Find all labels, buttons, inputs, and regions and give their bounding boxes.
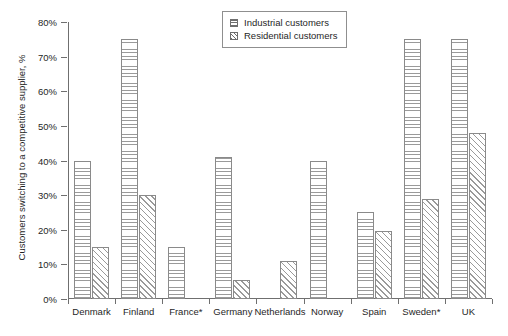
y-tick [61, 22, 67, 23]
bar-group [209, 22, 256, 299]
bar-group [445, 22, 492, 299]
bar-industrial [404, 39, 421, 299]
bar-industrial [310, 161, 327, 300]
bar-group [304, 22, 351, 299]
y-tick [61, 230, 67, 231]
bar-group [256, 22, 303, 299]
y-tick [61, 195, 67, 196]
legend-item-industrial: Industrial customers [230, 16, 337, 29]
y-tick [61, 161, 67, 162]
bar-industrial [451, 39, 468, 299]
y-tick [61, 57, 67, 58]
x-axis-label: Denmark [72, 306, 111, 317]
legend-swatch-icon-residential [230, 32, 238, 40]
bar-residential [233, 280, 250, 299]
x-axis-label: France* [169, 306, 202, 317]
bar-residential [92, 247, 109, 299]
x-axis-label: Spain [362, 306, 386, 317]
x-tick [209, 299, 210, 304]
x-tick [304, 299, 305, 304]
y-tick [61, 299, 67, 300]
y-tick-label: 70% [38, 51, 57, 62]
bar-group [115, 22, 162, 299]
bar-industrial [74, 161, 91, 300]
y-tick [61, 91, 67, 92]
bar-industrial [168, 247, 185, 299]
bar-residential [280, 261, 297, 299]
x-tick [68, 299, 69, 304]
y-tick-label: 40% [38, 155, 57, 166]
x-tick [115, 299, 116, 304]
bar-residential [469, 133, 486, 299]
chart-legend: Industrial customers Residential custome… [222, 11, 347, 48]
x-tick [162, 299, 163, 304]
bar-group [162, 22, 209, 299]
plot-area: 0%10%20%30%40%50%60%70%80% [68, 22, 492, 299]
y-tick-label: 20% [38, 224, 57, 235]
bar-residential [139, 195, 156, 299]
bar-residential [422, 199, 439, 299]
legend-swatch-icon-industrial [230, 19, 238, 27]
bar-group [68, 22, 115, 299]
x-axis-label: Finland [123, 306, 154, 317]
bar-group [398, 22, 445, 299]
x-axis-label: Norway [311, 306, 343, 317]
bar-industrial [121, 39, 138, 299]
bar-chart: Customers switching to a competitive sup… [0, 0, 508, 336]
y-tick [61, 126, 67, 127]
y-tick-label: 30% [38, 190, 57, 201]
x-tick [445, 299, 446, 304]
x-tick [351, 299, 352, 304]
y-tick-label: 10% [38, 259, 57, 270]
y-tick-label: 80% [38, 17, 57, 28]
legend-item-residential: Residential customers [230, 29, 337, 42]
bar-industrial [215, 157, 232, 299]
x-axis-label: Netherlands [254, 306, 305, 317]
bar-group [351, 22, 398, 299]
bar-industrial [357, 212, 374, 299]
y-tick-label: 60% [38, 86, 57, 97]
x-axis-label: Sweden* [402, 306, 440, 317]
legend-label-residential: Residential customers [244, 30, 337, 41]
x-tick [398, 299, 399, 304]
y-tick-label: 50% [38, 120, 57, 131]
bar-residential [375, 231, 392, 299]
y-tick [61, 264, 67, 265]
y-axis-title: Customers switching to a competitive sup… [16, 33, 27, 283]
x-tick [492, 299, 493, 304]
legend-label-industrial: Industrial customers [244, 17, 329, 28]
y-tick-label: 0% [43, 294, 57, 305]
x-tick [256, 299, 257, 304]
x-axis-label: Germany [213, 306, 252, 317]
x-axis-label: UK [462, 306, 475, 317]
